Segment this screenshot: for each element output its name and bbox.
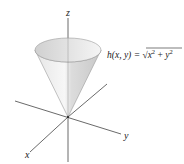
function-lhs: h(x, y) = xyxy=(107,50,142,61)
cone-diagram: z y x h(x, y) = √x2 + y2 xyxy=(0,0,184,164)
y-axis-label: y xyxy=(123,130,129,141)
svg-text:h(x, y) = √x2 + y2: h(x, y) = √x2 + y2 xyxy=(107,48,173,61)
axis-x xyxy=(30,117,68,152)
function-label: h(x, y) = √x2 + y2 xyxy=(107,48,182,61)
exponent-y: 2 xyxy=(169,48,172,55)
radicand-plus: + xyxy=(155,50,165,60)
cone-surface xyxy=(35,38,101,117)
x-axis-label: x xyxy=(24,149,30,160)
z-axis-label: z xyxy=(65,7,70,18)
origin-point xyxy=(67,116,69,118)
